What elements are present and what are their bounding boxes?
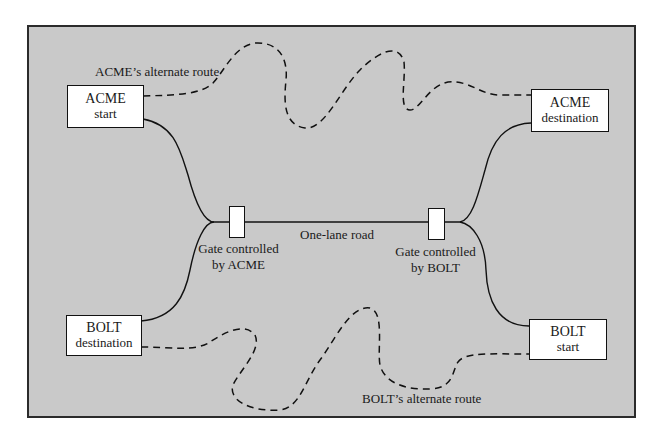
acme-gate-label: Gate controlled by ACME: [196, 241, 281, 272]
acme-gate-label-line1: Gate controlled: [196, 241, 281, 257]
acme-destination-name: ACME: [550, 96, 590, 111]
acme-gate-label-line2: by ACME: [196, 257, 281, 273]
road-fork-to-acme-dest: [460, 123, 531, 222]
acme-start-box: ACME start: [67, 85, 144, 128]
bolt-start-name: BOLT: [550, 325, 585, 340]
bolt-gate-label-line1: Gate controlled: [393, 244, 478, 260]
acme-alternate-route-line: [143, 43, 531, 128]
deadlock-road-diagram: ACME start ACME destination BOLT destina…: [0, 0, 662, 445]
acme-start-name: ACME: [85, 92, 125, 107]
bolt-start-box: BOLT start: [529, 319, 607, 360]
bolt-alternate-route-label: BOLT’s alternate route: [362, 391, 481, 407]
acme-gate: [229, 206, 245, 238]
acme-start-role: start: [94, 107, 116, 121]
bolt-gate: [428, 208, 445, 240]
acme-destination-role: destination: [541, 111, 598, 125]
acme-destination-box: ACME destination: [531, 89, 609, 132]
bolt-destination-name: BOLT: [86, 321, 121, 336]
bolt-gate-label-line2: by BOLT: [393, 260, 478, 276]
road-acme-start-to-fork: [143, 119, 214, 222]
bolt-destination-box: BOLT destination: [66, 315, 142, 356]
one-lane-road-label: One-lane road: [300, 227, 374, 243]
bolt-gate-label: Gate controlled by BOLT: [393, 244, 478, 275]
bolt-start-role: start: [557, 340, 579, 354]
bolt-destination-role: destination: [75, 336, 132, 350]
acme-alternate-route-label: ACME’s alternate route: [95, 64, 219, 80]
